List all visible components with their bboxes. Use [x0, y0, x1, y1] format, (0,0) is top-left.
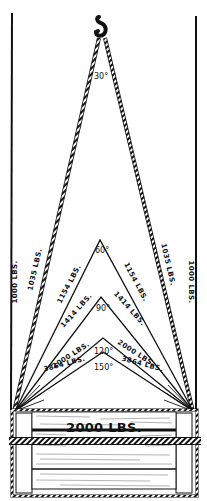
- vertical-leg-left: [11, 13, 12, 410]
- angle-label-120: 120°: [94, 347, 113, 356]
- vertical-leg-right-label: 1000 LBS.: [187, 260, 195, 303]
- angle-label-60: 60°: [95, 246, 109, 255]
- angle-label-90: 90°: [96, 304, 110, 313]
- angle-label-150: 150°: [94, 363, 113, 372]
- sling-60-right-label: 1154 LBS.: [122, 261, 149, 303]
- vertical-leg-left-label: 1000 LBS.: [11, 260, 19, 303]
- angle-label-30: 30°: [94, 72, 108, 81]
- load-weight-label: 2000 LBS.: [66, 420, 142, 435]
- crane-hook-icon: [96, 17, 106, 36]
- sling-load-diagram: 1000 LBS. 1000 LBS. 30° 1035 LBS. 1035 L…: [0, 0, 207, 501]
